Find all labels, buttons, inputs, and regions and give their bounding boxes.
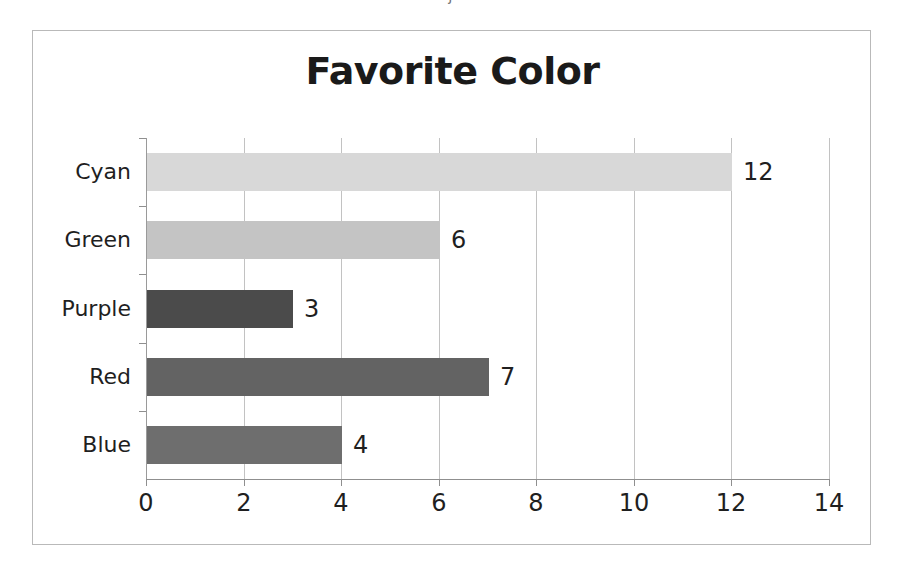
y-axis-tick-4 — [139, 138, 146, 139]
x-axis-tick-12 — [731, 479, 732, 486]
bar-value-red: 7 — [500, 365, 515, 389]
x-axis-tick-2 — [244, 479, 245, 486]
y-axis-label-green: Green — [33, 229, 131, 251]
y-axis-tick-1 — [139, 343, 146, 344]
y-axis-tick-0 — [139, 411, 146, 412]
x-axis-tick-14 — [829, 479, 830, 486]
x-axis-label-6: 6 — [409, 489, 469, 517]
bar-purple — [147, 290, 293, 328]
y-axis-tick-3 — [139, 206, 146, 207]
bar-cyan — [147, 153, 732, 191]
x-axis-tick-6 — [439, 479, 440, 486]
bar-green — [147, 221, 440, 259]
y-axis-label-blue: Blue — [33, 434, 131, 456]
x-axis-label-12: 12 — [701, 489, 761, 517]
clipped-text-above-chart: j — [0, 0, 901, 5]
x-axis-label-4: 4 — [311, 489, 371, 517]
x-axis-tick-4 — [341, 479, 342, 486]
x-axis-tick-0 — [146, 479, 147, 486]
x-axis-label-8: 8 — [506, 489, 566, 517]
chart-title: Favorite Color — [33, 49, 872, 93]
bar-value-green: 6 — [451, 228, 466, 252]
x-axis-label-0: 0 — [116, 489, 176, 517]
bar-value-purple: 3 — [304, 297, 319, 321]
x-axis-label-10: 10 — [604, 489, 664, 517]
x-axis-label-2: 2 — [214, 489, 274, 517]
y-axis-label-purple: Purple — [33, 298, 131, 320]
gridline-x-14 — [829, 138, 830, 479]
y-axis-label-cyan: Cyan — [33, 161, 131, 183]
chart-container: Favorite Color 473612 BlueRedPurpleGreen… — [32, 30, 871, 545]
bar-blue — [147, 426, 342, 464]
y-axis-label-red: Red — [33, 366, 131, 388]
x-axis-tick-8 — [536, 479, 537, 486]
x-axis-tick-10 — [634, 479, 635, 486]
y-axis-tick-2 — [139, 274, 146, 275]
bar-red — [147, 358, 489, 396]
bar-value-blue: 4 — [353, 433, 368, 457]
bar-value-cyan: 12 — [743, 160, 774, 184]
x-axis-label-14: 14 — [799, 489, 859, 517]
x-axis-line — [146, 479, 830, 480]
